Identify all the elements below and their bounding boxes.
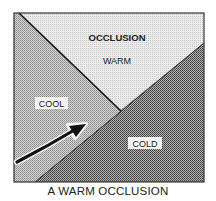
warm-label: WARM [103,56,131,66]
occlusion-label: OCCLUSION [89,32,146,43]
diagram-caption: A WARM OCCLUSION [0,185,216,197]
warm-occlusion-diagram: OCCLUSION WARM COOL COLD [0,0,216,201]
cold-label: COLD [132,139,158,149]
cool-label: COOL [39,99,65,109]
